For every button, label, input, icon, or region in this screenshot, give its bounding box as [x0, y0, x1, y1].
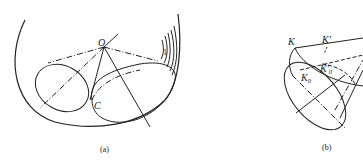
caption-b: (b): [322, 143, 332, 152]
label-k: K: [287, 36, 296, 47]
panel-b: [272, 38, 363, 141]
label-k0: K0: [300, 72, 312, 84]
label-k0-prime: K'0: [319, 63, 333, 75]
label-k-prime: K': [321, 34, 332, 45]
label-o: O: [98, 37, 105, 48]
label-1: 1: [163, 48, 167, 57]
diagram-canvas: O C 1 (a) K K' K'0 K0 (b): [0, 0, 363, 166]
left-ellipse: [27, 55, 97, 121]
caption-a: (a): [100, 145, 109, 154]
label-c: C: [94, 100, 101, 111]
